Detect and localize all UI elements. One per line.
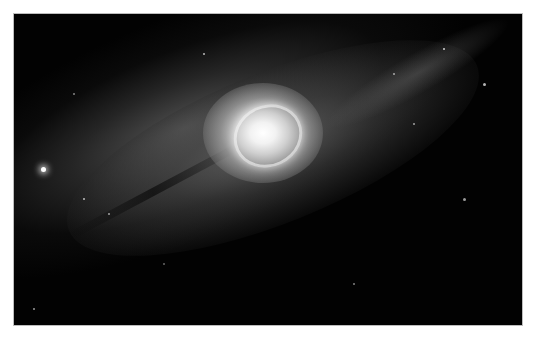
spiral-arm-upper-right xyxy=(317,13,519,143)
star xyxy=(33,308,35,310)
galaxy-core xyxy=(203,83,323,183)
star xyxy=(443,48,445,50)
star xyxy=(203,53,205,55)
dust-lane xyxy=(63,142,243,243)
star xyxy=(463,198,466,201)
star xyxy=(393,73,395,75)
star xyxy=(108,213,110,215)
inner-spiral-ring xyxy=(223,93,313,179)
star xyxy=(83,198,85,200)
photo-frame xyxy=(13,13,523,326)
star xyxy=(73,93,75,95)
star xyxy=(413,123,415,125)
galaxy-disk xyxy=(41,13,505,300)
star xyxy=(483,83,486,86)
galaxy-photo xyxy=(13,13,523,326)
bright-star xyxy=(41,167,46,172)
star xyxy=(163,263,165,265)
star xyxy=(353,283,355,285)
galaxy-halo xyxy=(13,13,523,326)
